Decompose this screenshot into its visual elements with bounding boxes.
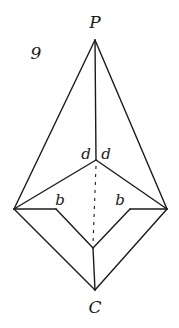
label-apex-p: P	[89, 14, 100, 31]
label-bottom-c: C	[88, 299, 101, 316]
polyhedron-net-diagram	[0, 0, 179, 328]
edge-left-c	[14, 209, 95, 290]
edge-lower-c	[93, 248, 95, 290]
figure-number: 9	[31, 45, 42, 62]
label-side-b-left: b	[55, 193, 65, 208]
edge-right-inner-to-lower	[93, 209, 130, 248]
label-side-b-right: b	[115, 193, 125, 208]
label-angle-d-left: d	[81, 147, 91, 162]
hidden-edge-vertical	[93, 166, 96, 244]
edge-p-left	[14, 40, 95, 209]
edge-left-inner-to-lower	[56, 209, 93, 248]
edge-right-c	[95, 209, 167, 290]
label-angle-d-right: d	[101, 147, 111, 162]
edge-p-center	[95, 40, 96, 160]
